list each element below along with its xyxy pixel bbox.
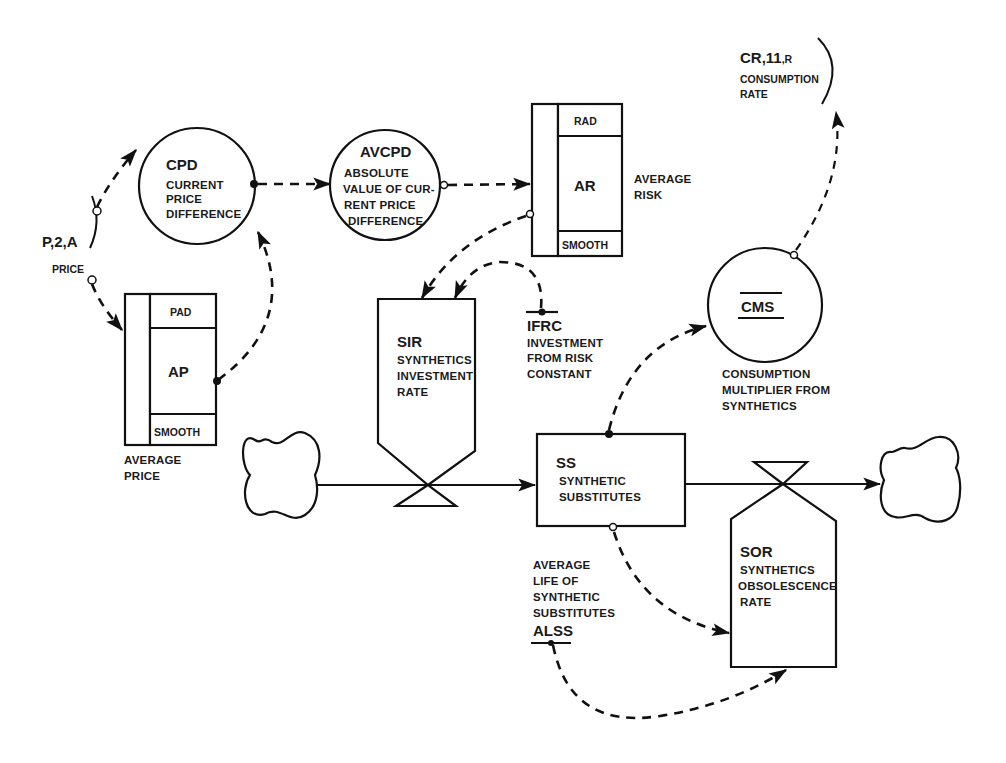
cr-label-2: RATE: [740, 88, 768, 100]
alss-pickoff: [548, 640, 554, 646]
price-pickoff-bottom: [88, 276, 96, 284]
link-ss-to-cms: [609, 326, 706, 430]
cms-label-1: CONSUMPTION: [722, 368, 810, 380]
avcpd-label-3: RENT PRICE: [344, 199, 416, 211]
cpd-pickoff: [250, 180, 258, 188]
source-cloud-icon: [243, 432, 319, 518]
cr-label-1: CONSUMPTION: [740, 73, 819, 85]
link-ap-to-cpd: [218, 232, 272, 380]
price-label: PRICE: [52, 263, 84, 275]
sir-valve-icon: [396, 485, 456, 506]
ar-node[interactable]: RAD AR SMOOTH AVERAGE RISK: [532, 104, 692, 256]
sor-code: SOR: [740, 543, 773, 560]
link-ss-to-sor: [614, 532, 729, 633]
cr-output: CR,11,R CONSUMPTION RATE: [740, 38, 833, 104]
avcpd-label-4: DIFFERENCE: [348, 215, 424, 227]
ap-bottom-label: SMOOTH: [154, 426, 200, 438]
ar-code: AR: [574, 177, 596, 194]
alss-label-1: AVERAGE: [533, 559, 591, 571]
ifrc-label-2: FROM RISK: [527, 352, 594, 364]
ap-node[interactable]: PAD AP SMOOTH AVERAGE PRICE: [124, 294, 216, 482]
sor-node[interactable]: SOR SYNTHETICS OBSOLESCENCE RATE: [731, 462, 837, 667]
sor-label-3: RATE: [740, 596, 771, 608]
alss-label-4: SUBSTITUTES: [533, 607, 615, 619]
ar-label-1: AVERAGE: [634, 173, 692, 185]
avcpd-code: AVCPD: [360, 143, 412, 160]
ifrc-label-3: CONSTANT: [527, 368, 592, 380]
link-ar-to-sir: [422, 216, 526, 298]
ar-pickoff: [527, 211, 534, 218]
avcpd-label-2: VALUE OF CUR-: [343, 183, 435, 195]
ss-pickoff-top: [605, 430, 613, 438]
sink-cloud-icon: [881, 437, 960, 522]
avcpd-label-1: ABSOLUTE: [344, 167, 409, 179]
alss-code: ALSS: [533, 622, 573, 639]
ifrc-node[interactable]: IFRC INVESTMENT FROM RISK CONSTANT: [526, 309, 603, 381]
ap-top-label: PAD: [170, 306, 192, 318]
ifrc-code: IFRC: [527, 317, 562, 334]
ap-left-bar: [125, 294, 150, 445]
link-price-to-cpd: [97, 150, 136, 207]
sir-label-3: RATE: [397, 386, 428, 398]
price-input: P,2,A PRICE: [42, 196, 101, 284]
cpd-node[interactable]: CPD CURRENT PRICE DIFFERENCE: [139, 128, 255, 244]
link-avcpd-to-ar: [448, 184, 530, 185]
cr-boundary-arc: [818, 38, 833, 104]
alss-label-2: LIFE OF: [533, 575, 578, 587]
cpd-label-1: CURRENT: [166, 179, 224, 191]
sor-valve-icon: [754, 462, 807, 484]
ar-label-2: RISK: [634, 189, 663, 201]
ap-code: AP: [168, 363, 189, 380]
ifrc-label-1: INVESTMENT: [527, 337, 603, 349]
ss-node[interactable]: SS SYNTHETIC SUBSTITUTES: [537, 434, 685, 526]
cpd-label-2: PRICE: [166, 193, 202, 205]
cpd-label-3: DIFFERENCE: [166, 208, 242, 220]
link-price-to-ap: [92, 284, 122, 330]
ap-pickoff: [213, 377, 221, 385]
flow-diagram: P,2,A PRICE CPD CURRENT PRICE DIFFERENCE…: [0, 0, 1006, 763]
ss-pickoff-bottom: [610, 524, 617, 531]
ap-label-2: PRICE: [124, 470, 160, 482]
sor-label-1: SYNTHETICS: [740, 564, 815, 576]
ar-bottom-label: SMOOTH: [562, 239, 608, 251]
cms-node[interactable]: CMS CONSUMPTION MULTIPLIER FROM SYNTHETI…: [708, 248, 830, 412]
link-cms-to-cr: [796, 112, 837, 250]
alss-node[interactable]: AVERAGE LIFE OF SYNTHETIC SUBSTITUTES AL…: [531, 559, 615, 646]
cpd-code: CPD: [166, 156, 198, 173]
ifrc-pickoff: [539, 309, 546, 316]
sir-label-1: SYNTHETICS: [397, 354, 472, 366]
price-boundary-arc: [90, 196, 97, 248]
price-code: P,2,A: [42, 233, 78, 250]
alss-label-3: SYNTHETIC: [533, 591, 600, 603]
ss-label-2: SUBSTITUTES: [559, 491, 641, 503]
ss-code: SS: [556, 454, 576, 471]
sir-code: SIR: [397, 333, 422, 350]
ss-label-1: SYNTHETIC: [559, 475, 626, 487]
cr-code: CR,11,R: [740, 49, 793, 66]
sir-node[interactable]: SIR SYNTHETICS INVESTMENT RATE: [378, 299, 475, 506]
price-pickoff-top: [93, 207, 101, 215]
avcpd-pickoff: [441, 182, 448, 189]
ar-top-label: RAD: [574, 115, 597, 127]
sor-label-2: OBSOLESCENCE: [738, 580, 837, 592]
cms-label-2: MULTIPLIER FROM: [722, 384, 830, 396]
avcpd-node[interactable]: AVCPD ABSOLUTE VALUE OF CUR- RENT PRICE …: [330, 130, 440, 240]
cms-code: CMS: [741, 298, 774, 315]
ar-left-bar: [532, 104, 558, 256]
ap-label-1: AVERAGE: [124, 454, 182, 466]
cms-label-3: SYNTHETICS: [722, 400, 797, 412]
sir-label-2: INVESTMENT: [397, 370, 473, 382]
cms-pickoff: [791, 252, 798, 259]
